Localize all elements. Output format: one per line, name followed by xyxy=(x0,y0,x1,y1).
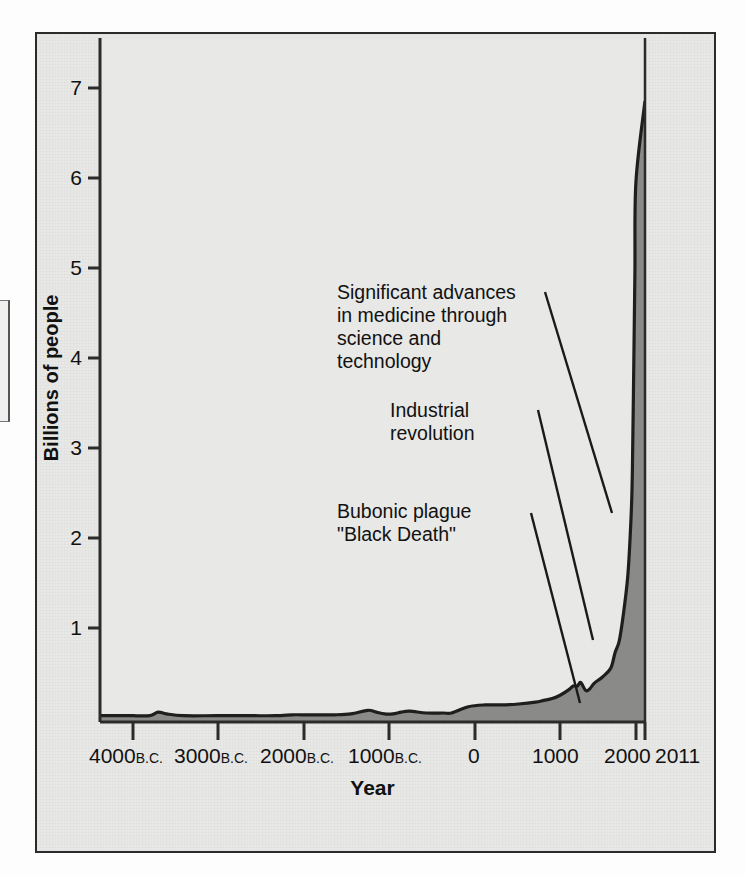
x-tick-label-0: 0 xyxy=(468,744,480,768)
x-tick-number-2000bc: 2000 xyxy=(260,744,307,767)
x-tick-number-1000bc: 1000 xyxy=(348,744,395,767)
x-tick-label-2000bc: 2000B.C. xyxy=(260,744,334,768)
annotation-bubonic-plague: Bubonic plague "Black Death" xyxy=(337,500,471,546)
x-tick-era-2000bc: B.C. xyxy=(307,750,334,766)
y-tick-label-1: 1 xyxy=(52,616,82,640)
y-axis-ticks xyxy=(88,88,100,628)
x-tick-label-1000: 1000 xyxy=(532,744,579,768)
x-tick-label-2011: 2011 xyxy=(655,744,700,768)
x-tick-era-1000bc: B.C. xyxy=(395,750,422,766)
x-tick-label-2000: 2000 xyxy=(604,744,651,768)
x-tick-number-1000: 1000 xyxy=(532,744,579,767)
plot-area-background xyxy=(100,38,645,722)
x-tick-label-4000bc: 4000B.C. xyxy=(89,744,163,768)
x-tick-number-4000bc: 4000 xyxy=(89,744,136,767)
x-tick-era-4000bc: B.C. xyxy=(136,750,163,766)
y-tick-label-7: 7 xyxy=(52,76,82,100)
x-tick-number-2011: 2011 xyxy=(655,744,700,767)
x-tick-era-3000bc: B.C. xyxy=(221,750,248,766)
y-tick-label-5: 5 xyxy=(52,256,82,280)
annotation-industrial-revolution: Industrial revolution xyxy=(390,399,475,445)
page-background: Billions of people 7 6 5 4 3 2 1 4000B.C… xyxy=(0,0,745,876)
y-tick-label-6: 6 xyxy=(52,166,82,190)
x-axis-ticks xyxy=(133,722,645,740)
x-tick-label-1000bc: 1000B.C. xyxy=(348,744,422,768)
y-tick-label-3: 3 xyxy=(52,436,82,460)
annotation-medicine: Significant advances in medicine through… xyxy=(337,281,516,373)
x-tick-number-2000: 2000 xyxy=(604,744,651,767)
x-axis-title: Year xyxy=(100,776,645,800)
y-tick-label-2: 2 xyxy=(52,526,82,550)
x-tick-number-3000bc: 3000 xyxy=(174,744,221,767)
y-tick-label-4: 4 xyxy=(52,346,82,370)
x-tick-label-3000bc: 3000B.C. xyxy=(174,744,248,768)
x-tick-number-0: 0 xyxy=(468,744,480,767)
y-axis-title: Billions of people xyxy=(38,258,64,498)
